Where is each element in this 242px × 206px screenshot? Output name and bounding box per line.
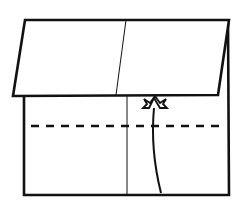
fold-up-arrow [143, 96, 167, 193]
folded-flap [13, 20, 229, 96]
diagram-canvas [0, 0, 242, 206]
origami-diagram: Paper square with top flap folded down; … [0, 0, 242, 206]
arrow-head-icon [143, 96, 167, 108]
arrow-shaft [153, 108, 161, 193]
